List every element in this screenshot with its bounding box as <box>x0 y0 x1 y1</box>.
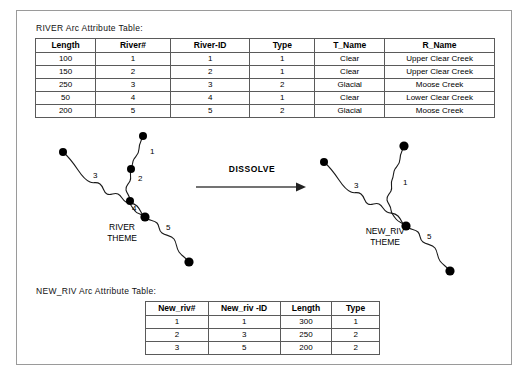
table-row: 100 1 1 1 Clear Upper Clear Creek <box>36 53 495 66</box>
cell-river-id: 3 <box>170 79 250 92</box>
column-header-r-name: R_Name <box>385 39 495 53</box>
table-row: 1 1 300 1 <box>146 316 380 329</box>
cell-r-name: Moose Creek <box>385 105 495 118</box>
cell-type: 1 <box>332 316 380 329</box>
cell-length: 150 <box>36 66 96 79</box>
column-header-length: Length <box>36 39 96 53</box>
cell-t-name: Glacial <box>315 79 385 92</box>
cell-type: 2 <box>332 342 380 355</box>
arc-label-3: 3 <box>354 181 359 190</box>
cell-length: 250 <box>36 79 96 92</box>
cell-river-id: 2 <box>170 66 250 79</box>
river-table-caption: RIVER Arc Attribute Table: <box>36 23 143 33</box>
cell-type: 1 <box>250 92 315 105</box>
table-header-row: New_riv# New_riv -ID Length Type <box>146 302 380 316</box>
newriv-attribute-table: New_riv# New_riv -ID Length Type 1 1 300… <box>145 301 380 355</box>
cell-type: 1 <box>250 66 315 79</box>
cell-new-riv-id: 5 <box>208 342 280 355</box>
cell-length: 200 <box>280 342 332 355</box>
cell-t-name: Clear <box>315 53 385 66</box>
newriv-theme-diagram: 1 3 5 <box>300 128 485 278</box>
arc-label-3: 3 <box>93 171 98 180</box>
river-theme-title: RIVER THEME <box>82 222 162 244</box>
cell-type: 1 <box>250 53 315 66</box>
column-header-river-id: River-ID <box>170 39 250 53</box>
column-header-type: Type <box>250 39 315 53</box>
column-header-new-riv-id: New_riv -ID <box>208 302 280 316</box>
column-header-river-num: River# <box>96 39 171 53</box>
table-row: 150 2 2 1 Clear Upper Clear Creek <box>36 66 495 79</box>
cell-length: 50 <box>36 92 96 105</box>
dissolve-label: DISSOLVE <box>196 164 308 174</box>
cell-t-name: Glacial <box>315 105 385 118</box>
cell-length: 250 <box>280 329 332 342</box>
column-header-type: Type <box>332 302 380 316</box>
cell-river-num: 5 <box>96 105 171 118</box>
table-row: 200 5 5 2 Glacial Moose Creek <box>36 105 495 118</box>
river-attribute-table: Length River# River-ID Type T_Name R_Nam… <box>35 38 495 118</box>
newriv-theme-title-line2: THEME <box>342 237 428 248</box>
cell-new-riv-num: 1 <box>146 316 209 329</box>
cell-t-name: Clear <box>315 92 385 105</box>
cell-river-num: 4 <box>96 92 171 105</box>
table-row: 50 4 4 1 Clear Lower Clear Creek <box>36 92 495 105</box>
cell-length: 100 <box>36 53 96 66</box>
node-junction <box>140 212 149 221</box>
cell-length: 300 <box>280 316 332 329</box>
arc-label-4: 4 <box>132 204 137 213</box>
arc-label-2: 2 <box>138 174 143 183</box>
cell-type: 2 <box>250 79 315 92</box>
cell-type: 2 <box>250 105 315 118</box>
table-row: 250 3 3 2 Glacial Moose Creek <box>36 79 495 92</box>
node-endpoint <box>59 148 67 156</box>
column-header-length: Length <box>280 302 332 316</box>
cell-river-num: 2 <box>96 66 171 79</box>
cell-new-riv-num: 2 <box>146 329 209 342</box>
newriv-theme-title: NEW_RIV THEME <box>342 226 428 248</box>
arrow-right-icon <box>196 180 308 194</box>
arc-path-3 <box>324 162 405 227</box>
cell-river-id: 1 <box>170 53 250 66</box>
figure-canvas: RIVER Arc Attribute Table: Length River#… <box>0 0 530 380</box>
cell-new-riv-num: 3 <box>146 342 209 355</box>
cell-r-name: Upper Clear Creek <box>385 66 495 79</box>
arc-label-5: 5 <box>166 223 171 232</box>
cell-length: 200 <box>36 105 96 118</box>
cell-river-num: 3 <box>96 79 171 92</box>
cell-r-name: Moose Creek <box>385 79 495 92</box>
cell-new-riv-id: 1 <box>208 316 280 329</box>
cell-r-name: Lower Clear Creek <box>385 92 495 105</box>
cell-river-num: 1 <box>96 53 171 66</box>
column-header-new-riv-num: New_riv# <box>146 302 209 316</box>
node-endpoint <box>320 158 328 166</box>
arc-path-2 <box>126 170 131 200</box>
cell-t-name: Clear <box>315 66 385 79</box>
cell-new-riv-id: 3 <box>208 329 280 342</box>
cell-type: 2 <box>332 329 380 342</box>
dissolve-operation: DISSOLVE <box>196 164 308 198</box>
table-row: 2 3 250 2 <box>146 329 380 342</box>
node-endpoint <box>445 266 454 275</box>
column-header-t-name: T_Name <box>315 39 385 53</box>
node-endpoint <box>399 141 408 150</box>
cell-river-id: 4 <box>170 92 250 105</box>
arc-label-1: 1 <box>403 178 408 187</box>
node-endpoint <box>184 257 193 266</box>
newriv-table-caption: NEW_RIV Arc Attribute Table: <box>36 286 156 296</box>
cell-river-id: 5 <box>170 105 250 118</box>
river-theme-diagram: 1 2 3 4 5 <box>38 128 223 278</box>
river-theme-title-line1: RIVER <box>82 222 162 233</box>
table-row: 3 5 200 2 <box>146 342 380 355</box>
river-theme-title-line2: THEME <box>82 233 162 244</box>
newriv-theme-title-line1: NEW_RIV <box>342 226 428 237</box>
arc-label-1: 1 <box>150 147 155 156</box>
cell-r-name: Upper Clear Creek <box>385 53 495 66</box>
table-header-row: Length River# River-ID Type T_Name R_Nam… <box>36 39 495 53</box>
node-junction <box>127 165 135 173</box>
node-endpoint <box>139 132 147 140</box>
arc-path-1 <box>131 136 143 168</box>
